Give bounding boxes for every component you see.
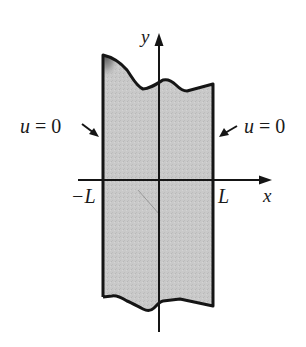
y-axis-label: y [141, 27, 149, 46]
left-bc-equals: = [35, 115, 46, 137]
right-boundary-condition: u = 0 [244, 116, 285, 136]
left-boundary-condition: u = 0 [20, 116, 61, 136]
left-bc-variable: u [20, 115, 30, 137]
y-axis-arrow-icon [155, 33, 164, 46]
right-boundary-arrow-icon [219, 126, 237, 137]
x-axis-arrow-icon [259, 176, 272, 185]
left-edge-tick-label: −L [71, 186, 96, 206]
right-edge-tick-label: L [218, 186, 229, 206]
diagram-graphic [0, 0, 306, 347]
left-boundary-arrow-icon [82, 124, 99, 137]
left-bc-value: 0 [51, 115, 61, 137]
right-bc-equals: = [259, 115, 270, 137]
right-bc-value: 0 [275, 115, 285, 137]
right-bc-variable: u [244, 115, 254, 137]
strip-diagram: y x −L L u = 0 u = 0 [0, 0, 306, 347]
x-axis-label: x [263, 186, 271, 205]
